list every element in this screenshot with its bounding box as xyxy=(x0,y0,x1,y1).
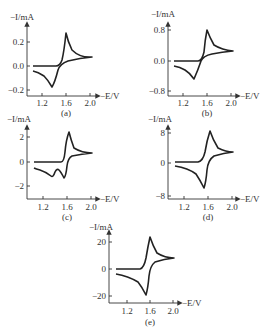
panel-caption: (e) xyxy=(145,317,155,327)
y-tick: 20 xyxy=(97,237,107,247)
cv-figure: −I/mA 0.2 0.0 −0.2 1.2 1.6 2.0 −E/V (a) … xyxy=(0,0,272,332)
y-axis-label: −I/mA xyxy=(10,12,35,22)
panel-caption: (b) xyxy=(202,108,213,118)
x-tick: 2.0 xyxy=(226,202,238,212)
x-axis-label: −E/V xyxy=(182,298,202,308)
y-tick: 8 xyxy=(161,128,166,138)
y-tick: −0.2 xyxy=(8,85,24,95)
x-axis-label: −E/V xyxy=(240,91,260,101)
x-tick: 1.2 xyxy=(177,98,188,108)
cv-curve xyxy=(174,30,233,79)
y-axis-label: −I/mA xyxy=(89,222,114,232)
panel-caption: (c) xyxy=(62,212,72,222)
y-axis-label: −I/mA xyxy=(7,114,32,124)
panel-d: −I/mA 8 0 −8 1.2 1.6 2.0 −E/V (d) xyxy=(148,114,260,222)
y-tick: 2 xyxy=(20,132,25,142)
x-tick: 1.2 xyxy=(178,202,189,212)
cv-curve xyxy=(34,132,92,178)
y-axis-label: −I/mA xyxy=(151,9,176,19)
cv-curve xyxy=(33,33,92,87)
x-tick: 1.2 xyxy=(37,202,48,212)
panel-a: −I/mA 0.2 0.0 −0.2 1.2 1.6 2.0 −E/V (a) xyxy=(8,12,120,118)
x-tick: 1.2 xyxy=(36,98,47,108)
x-tick: 2.0 xyxy=(85,202,97,212)
y-tick: 0.0 xyxy=(13,61,25,71)
panel-caption: (d) xyxy=(203,212,214,222)
y-tick: 0 xyxy=(161,158,166,168)
x-tick: 1.2 xyxy=(121,306,132,316)
y-tick: 0.0 xyxy=(154,56,166,66)
cv-curve xyxy=(175,131,233,188)
x-tick: 2.0 xyxy=(84,98,96,108)
y-tick: −8 xyxy=(155,191,165,201)
x-axis-label: −E/V xyxy=(100,91,120,101)
y-tick: 0.8 xyxy=(154,25,166,35)
panel-caption: (a) xyxy=(61,108,71,118)
x-tick: 2.0 xyxy=(225,98,237,108)
x-axis-label: −E/V xyxy=(240,194,260,204)
panel-b: −I/mA 0.8 0.0 −0.8 1.2 1.6 2.0 −E/V (b) xyxy=(149,9,260,118)
y-tick: −20 xyxy=(92,291,107,301)
y-tick: 0 xyxy=(20,157,25,167)
x-tick: 1.6 xyxy=(144,306,156,316)
y-tick: −0.8 xyxy=(149,86,166,96)
panel-c: −I/mA 2 0 −2 1.2 1.6 2.0 −E/V (c) xyxy=(7,114,120,222)
x-tick: 1.6 xyxy=(60,98,72,108)
panel-e: −I/mA 20 0 −20 1.2 1.6 2.0 −E/V (e) xyxy=(89,222,202,327)
y-axis-label: −I/mA xyxy=(148,114,173,124)
y-tick: −2 xyxy=(14,181,24,191)
y-tick: 0 xyxy=(102,264,107,274)
x-axis-label: −E/V xyxy=(100,194,120,204)
x-tick: 2.0 xyxy=(167,306,179,316)
x-tick: 1.6 xyxy=(202,202,214,212)
cv-curve xyxy=(116,237,174,295)
x-tick: 1.6 xyxy=(61,202,73,212)
y-tick: 0.2 xyxy=(13,37,24,47)
x-tick: 1.6 xyxy=(201,98,213,108)
